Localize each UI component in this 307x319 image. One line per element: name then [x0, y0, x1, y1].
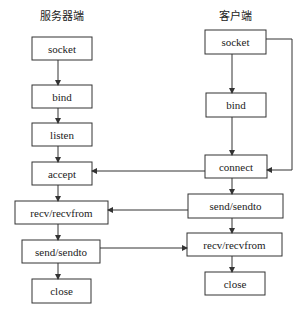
client-step-bind: bind: [206, 93, 266, 117]
client-step-socket: socket: [205, 30, 266, 54]
client-step-recv: recv/recvfrom: [187, 233, 282, 256]
server-title: 服务器端: [40, 10, 84, 23]
client-step-close: close: [205, 272, 265, 295]
server-step-label: listen: [50, 129, 74, 141]
client-step-label: close: [224, 278, 247, 290]
server-step-label: socket: [48, 43, 76, 55]
socket-to-connect-bypass-arrow: [266, 39, 292, 170]
server-step-label: recv/recvfrom: [30, 207, 93, 219]
client-step-send: send/sendto: [188, 194, 283, 218]
client-step-label: recv/recvfrom: [203, 239, 266, 251]
server-step-close: close: [32, 279, 91, 303]
server-step-listen: listen: [32, 123, 92, 146]
server-step-label: bind: [52, 91, 72, 103]
tcp-udp-flow-diagram: 服务器端 客户端 socket bind listen accept recv/…: [0, 0, 307, 319]
client-step-label: socket: [221, 36, 249, 48]
server-step-label: accept: [48, 168, 76, 180]
client-step-label: connect: [219, 161, 253, 173]
client-step-label: bind: [226, 99, 246, 111]
client-step-connect: connect: [205, 155, 267, 178]
server-step-bind: bind: [32, 85, 92, 108]
server-step-label: close: [50, 285, 73, 297]
server-step-send: send/sendto: [22, 240, 100, 263]
server-step-socket: socket: [32, 37, 92, 60]
client-step-label: send/sendto: [210, 200, 262, 212]
client-title: 客户端: [219, 9, 252, 23]
server-step-label: send/sendto: [35, 246, 87, 258]
server-step-recv: recv/recvfrom: [15, 201, 108, 224]
server-step-accept: accept: [32, 162, 92, 185]
